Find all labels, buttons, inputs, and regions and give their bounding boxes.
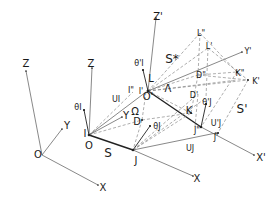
- label-theta-j: θJ: [153, 123, 160, 131]
- label-x-prime: X': [256, 153, 266, 163]
- label-s-star: S*: [165, 53, 179, 65]
- label-y-prime: Y': [244, 48, 251, 56]
- label-j-prime: J': [214, 134, 219, 142]
- label-point-j: J: [135, 156, 138, 166]
- label-world-x: X: [100, 183, 107, 193]
- label-d-prime: D': [190, 92, 198, 100]
- label-k-double-prime: K": [236, 70, 245, 78]
- label-s-prime: S': [237, 103, 248, 115]
- label-u-i: UI: [112, 96, 120, 104]
- label-s: S: [104, 147, 112, 159]
- label-point-d: D: [133, 117, 141, 127]
- kinematic-frames-diagram: O Z Y X Z Y I O θI UI I" I' O' θ'I Ω L Λ…: [0, 0, 272, 205]
- label-lambda: Λ: [165, 84, 172, 94]
- label-d-double-prime: D": [196, 72, 206, 80]
- label-frame-i-y: Y: [123, 111, 129, 121]
- label-i-double-prime: I": [128, 87, 134, 95]
- label-l-double-prime: L": [197, 30, 205, 38]
- label-theta-i-prime: θ'I: [134, 60, 143, 68]
- label-point-i: I: [84, 129, 87, 139]
- label-u-j: UJ: [186, 145, 194, 153]
- label-l-prime: L': [206, 43, 213, 51]
- label-u-j-prime: U'J: [211, 120, 221, 128]
- diagram-canvas: [0, 0, 272, 205]
- label-theta-i: θI: [74, 104, 81, 112]
- label-world-z: Z: [23, 59, 30, 69]
- label-point-l: L: [148, 74, 154, 84]
- label-o-prime: O': [143, 92, 154, 102]
- label-frame-i-z: Z: [88, 59, 95, 69]
- label-world-origin: O: [34, 150, 42, 160]
- label-frame-j-x: X: [194, 174, 201, 184]
- label-k-prime: K': [252, 78, 259, 86]
- label-j-double-prime: J": [194, 127, 200, 135]
- label-z-prime: Z': [153, 12, 163, 22]
- label-theta-j-prime: θ'J: [202, 99, 211, 107]
- label-origin-o: O: [85, 141, 93, 151]
- label-point-k: K: [186, 106, 193, 116]
- label-world-y: Y: [64, 121, 70, 131]
